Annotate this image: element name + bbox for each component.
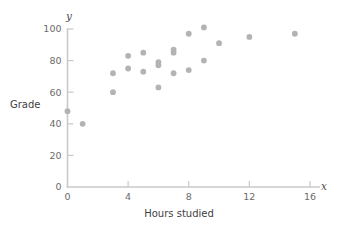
data-point	[156, 62, 162, 68]
data-point	[186, 31, 192, 37]
data-point	[125, 66, 131, 72]
data-point	[171, 70, 177, 76]
plot-canvas: 0204060801000481216 y x Grade Hours stud…	[0, 0, 346, 229]
data-point	[292, 31, 298, 37]
data-point	[186, 67, 192, 73]
x-tick-label: 0	[64, 191, 70, 202]
data-point	[171, 50, 177, 56]
data-point	[201, 25, 207, 31]
data-point	[110, 70, 116, 76]
scatter-plot-figure: 0204060801000481216 y x Grade Hours stud…	[0, 0, 346, 229]
y-tick-label: 60	[49, 87, 61, 98]
data-points-group	[65, 25, 298, 127]
data-point	[80, 121, 86, 127]
data-point	[65, 108, 71, 114]
x-tick-label: 16	[304, 191, 316, 202]
y-tick-label: 0	[55, 181, 61, 192]
x-axis-symbol: x	[321, 180, 327, 192]
data-point	[156, 85, 162, 91]
data-point	[125, 53, 131, 59]
y-tick-label: 80	[49, 55, 61, 66]
x-tick-label: 12	[243, 191, 255, 202]
data-point	[201, 58, 207, 64]
data-point	[110, 89, 116, 95]
y-tick-label: 20	[49, 150, 61, 161]
data-point	[140, 50, 146, 56]
x-tick-label: 4	[125, 191, 131, 202]
y-axis-symbol: y	[65, 10, 73, 22]
data-point	[140, 69, 146, 75]
y-axis-title: Grade	[10, 99, 41, 110]
y-tick-label: 100	[43, 23, 61, 34]
ticks-group: 0204060801000481216	[43, 23, 316, 202]
x-axis-title: Hours studied	[144, 208, 214, 219]
axes-group	[68, 29, 320, 187]
x-tick-label: 8	[186, 191, 192, 202]
data-point	[246, 34, 252, 40]
data-point	[216, 40, 222, 46]
y-tick-label: 40	[49, 118, 61, 129]
